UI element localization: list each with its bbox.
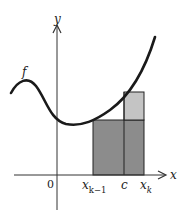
lower-rectangle — [93, 120, 144, 175]
upper-rectangle — [124, 92, 144, 120]
tick-label-xk: xk — [140, 178, 152, 195]
origin-label: 0 — [47, 178, 54, 191]
tick-label-xk-minus-1: xk−1 — [82, 178, 106, 195]
curve-label: f — [21, 65, 29, 79]
tick-label-c: c — [121, 178, 128, 192]
x-axis-label: x — [170, 168, 177, 182]
y-axis-label: y — [53, 12, 61, 26]
riemann-diagram: y x 0 f xk−1 c xk — [0, 0, 188, 222]
